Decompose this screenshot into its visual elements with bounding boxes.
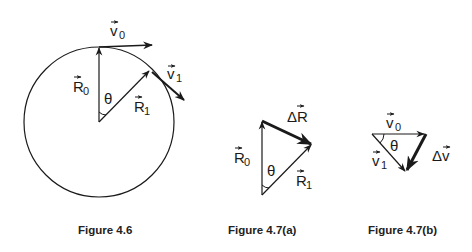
svg-text:1: 1 (306, 179, 312, 191)
label-theta: θ (390, 137, 398, 154)
label-theta: θ (104, 90, 112, 107)
label-theta: θ (267, 162, 275, 179)
vector-v0 (99, 45, 152, 47)
theta-arc (262, 185, 269, 188)
label-delta-v: Δv (432, 147, 450, 164)
caption-figure-4-7a: Figure 4.7(a) (228, 224, 297, 236)
figure-4-6: v 0 v 1 R 0 R 1 θ Figure 4.6 (24, 22, 184, 236)
caption-figure-4-6: Figure 4.6 (78, 224, 132, 236)
svg-text:ΔR: ΔR (287, 108, 308, 125)
label-v0: v 0 (110, 22, 125, 41)
label-v1: v 1 (372, 152, 387, 171)
theta-arc (380, 134, 384, 143)
svg-text:0: 0 (395, 121, 401, 133)
svg-text:1: 1 (381, 159, 387, 171)
figure-4-7a: ΔR R 0 R 1 θ Figure 4.7(a) (228, 106, 312, 236)
svg-text:1: 1 (144, 105, 150, 117)
svg-text:Δv: Δv (432, 147, 450, 164)
label-v1: v 1 (167, 65, 182, 84)
diagram-canvas: v 0 v 1 R 0 R 1 θ Figure 4.6 ΔR (0, 0, 472, 252)
svg-text:0: 0 (119, 29, 125, 41)
vector-delta-v (407, 134, 426, 170)
label-v0: v 0 (386, 114, 401, 133)
svg-text:0: 0 (83, 85, 89, 97)
svg-text:0: 0 (244, 156, 250, 168)
svg-text:v: v (167, 65, 175, 82)
svg-text:v: v (110, 22, 118, 39)
caption-figure-4-7b: Figure 4.7(b) (368, 224, 437, 236)
svg-text:v: v (386, 114, 394, 131)
label-r0: R 0 (234, 148, 250, 168)
label-r0: R 0 (73, 77, 89, 97)
svg-text:v: v (372, 152, 380, 169)
svg-text:1: 1 (176, 72, 182, 84)
label-delta-r: ΔR (287, 106, 308, 125)
label-r1: R 1 (296, 171, 312, 191)
figure-4-7b: v 0 v 1 Δv θ Figure 4.7(b) (368, 114, 450, 236)
theta-arc (99, 112, 106, 115)
label-r1: R 1 (134, 97, 150, 117)
